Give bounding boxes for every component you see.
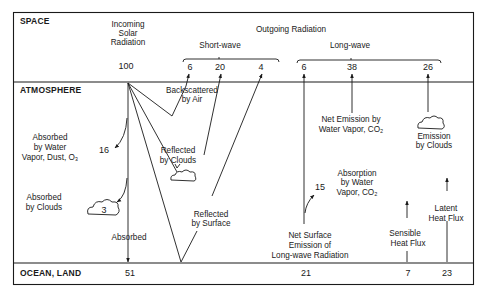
shortwave-value-air: 6 [187,62,192,72]
svg-text:Reflected: Reflected [161,146,196,155]
svg-text:Vapor, Dust, O₃: Vapor, Dust, O₃ [22,153,78,162]
label-absorbed-clouds: Absorbed by Clouds [26,193,62,212]
svg-text:by Air: by Air [182,95,203,104]
label-sensible-heat: Sensible Heat Flux [389,229,425,248]
longwave-value-surface: 6 [301,62,306,72]
label-absorption-vapor: Absorption by Water Vapor, CO₂ [337,169,378,197]
svg-text:Heat Flux: Heat Flux [428,214,463,223]
surface-value-absorbed: 51 [125,268,135,278]
backscatter-arrow [186,74,189,86]
reflected-surface-arrow [212,74,262,196]
svg-text:by Clouds: by Clouds [160,156,196,165]
shortwave-value-clouds: 20 [215,62,225,72]
svg-text:Heat Flux: Heat Flux [390,239,425,248]
earth-energy-balance-diagram: SPACE ATMOSPHERE OCEAN, LAND Incoming So… [0,0,491,299]
absorbed-vapor-value: 16 [99,145,109,155]
longwave-value-clouds: 26 [423,62,433,72]
absorbed-clouds-value: 3 [101,205,106,215]
svg-text:Water Vapor, CO₂: Water Vapor, CO₂ [319,125,384,134]
incoming-radiation-header: Incoming Solar Radiation 100 [111,20,146,71]
svg-text:Absorbed: Absorbed [32,133,67,142]
outgoing-title: Outgoing Radiation [256,25,327,34]
zone-label-surface: OCEAN, LAND [20,268,81,278]
label-net-surface-emission: Net Surface Emission of Long-wave Radiat… [272,231,349,260]
svg-text:by Clouds: by Clouds [416,141,452,150]
svg-text:Incoming: Incoming [111,20,145,29]
cloud-icon-emission [418,116,444,129]
svg-text:Vapor, CO₂: Vapor, CO₂ [337,188,378,197]
svg-text:Absorbed: Absorbed [26,193,61,202]
absorption-vapor-arrow [305,195,314,213]
zone-label-space: SPACE [20,16,50,26]
svg-text:Radiation: Radiation [111,38,146,47]
surface-value-longwave: 21 [301,268,311,278]
svg-text:Net Surface: Net Surface [288,231,332,240]
svg-text:Emission of: Emission of [289,241,332,250]
absorption-vapor-value: 15 [315,182,325,192]
svg-text:Net Emission by: Net Emission by [321,115,381,124]
svg-text:Sensible: Sensible [389,229,421,238]
svg-text:by Clouds: by Clouds [26,203,62,212]
label-absorbed-surface: Absorbed [111,233,146,242]
longwave-label: Long-wave [330,41,371,50]
shortwave-group: Short-wave 6 20 4 [183,41,279,72]
svg-text:by Water: by Water [34,143,67,152]
shortwave-bracket [183,59,279,62]
svg-text:Backscattered: Backscattered [166,86,218,95]
absorbed-clouds-arrow [117,178,127,202]
longwave-group: Long-wave 6 38 26 [297,41,441,72]
svg-text:by Water: by Water [341,178,374,187]
svg-text:Long-wave Radiation: Long-wave Radiation [272,251,349,260]
shortwave-label: Short-wave [199,41,241,50]
shortwave-value-surface: 4 [258,62,263,72]
surface-value-latent: 23 [442,268,452,278]
longwave-value-vapor: 38 [347,62,357,72]
cloud-icon-reflected [171,170,196,181]
svg-text:Solar: Solar [118,29,137,38]
surface-value-sensible: 7 [405,268,410,278]
svg-text:Latent: Latent [435,204,458,213]
longwave-bracket [297,60,441,63]
absorbed-vapor-arrow [115,118,127,148]
incoming-value: 100 [118,61,133,71]
svg-text:Reflected: Reflected [194,210,229,219]
svg-text:Absorption: Absorption [337,169,377,178]
label-net-emission: Net Emission by Water Vapor, CO₂ [319,115,384,134]
label-reflected-clouds: Reflected by Clouds [160,146,196,165]
label-absorbed-vapor: Absorbed by Water Vapor, Dust, O₃ [22,133,78,162]
svg-text:Emission: Emission [417,132,451,141]
label-backscattered: Backscattered by Air [166,86,218,104]
svg-text:by Surface: by Surface [191,219,231,228]
zone-label-atmosphere: ATMOSPHERE [20,85,81,95]
label-latent-heat: Latent Heat Flux [428,204,463,223]
label-reflected-surface: Reflected by Surface [191,210,231,228]
label-emission-clouds: Emission by Clouds [416,132,452,150]
